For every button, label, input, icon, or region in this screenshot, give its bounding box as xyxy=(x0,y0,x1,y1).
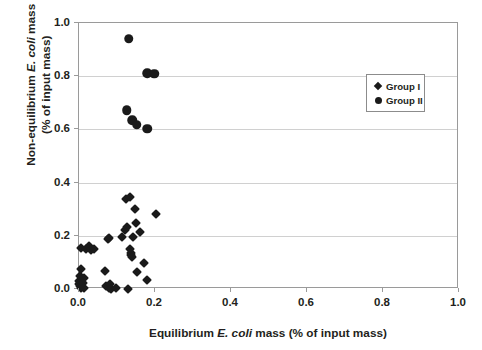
chart-legend: Group I Group II xyxy=(366,74,425,112)
legend-item-group-ii: Group II xyxy=(372,93,420,107)
legend-label-group-ii: Group II xyxy=(386,95,423,106)
legend-label-group-i: Group I xyxy=(386,81,420,92)
x-tick-label: 1.0 xyxy=(450,296,466,308)
x-tick-mark xyxy=(78,288,79,292)
y-axis-title-line1: Non-equilibrium E. coli mass xyxy=(24,4,38,166)
x-tick-label: 0.6 xyxy=(298,296,314,308)
y-tick-label: 0.6 xyxy=(36,122,70,134)
y-axis-title: Non-equilibrium E. coli mass (% of input… xyxy=(24,0,53,200)
x-tick-mark xyxy=(306,288,307,292)
data-point-group-i xyxy=(123,284,133,294)
x-tick-mark xyxy=(154,288,155,292)
y-axis-title-line2: (% of input mass) xyxy=(39,36,53,134)
x-tick-mark xyxy=(382,288,383,292)
x-tick-label: 0.4 xyxy=(222,296,238,308)
data-point-group-i xyxy=(151,209,161,219)
data-point-group-ii xyxy=(122,105,132,115)
data-point-group-i xyxy=(130,204,140,214)
data-point-group-i xyxy=(132,267,142,277)
x-tick-label: 0.2 xyxy=(146,296,162,308)
y-tick-label: 0.0 xyxy=(36,282,70,294)
x-tick-mark xyxy=(458,288,459,292)
x-tick-label: 0.8 xyxy=(374,296,390,308)
data-point-group-ii xyxy=(124,34,134,44)
y-tick-label: 0.8 xyxy=(36,69,70,81)
data-point-group-ii xyxy=(132,120,142,130)
x-tick-label: 0.0 xyxy=(70,296,86,308)
data-point-group-i xyxy=(139,258,149,268)
y-tick-label: 0.2 xyxy=(36,229,70,241)
x-tick-mark xyxy=(230,288,231,292)
y-tick-label: 1.0 xyxy=(36,16,70,28)
circle-marker-icon xyxy=(372,97,384,104)
y-tick-label: 0.4 xyxy=(36,176,70,188)
data-point-group-ii xyxy=(142,124,152,134)
x-axis-title: Equilibrium E. coli mass (% of input mas… xyxy=(78,326,458,340)
scatter-chart-figure: Non-equilibrium E. coli mass (% of input… xyxy=(0,0,482,350)
diamond-marker-icon xyxy=(372,83,384,89)
legend-item-group-i: Group I xyxy=(372,79,420,93)
plot-area xyxy=(78,22,458,288)
data-point-group-i xyxy=(142,275,152,285)
gridline xyxy=(79,183,457,184)
data-point-group-i xyxy=(100,266,110,276)
data-point-group-ii xyxy=(149,69,159,79)
